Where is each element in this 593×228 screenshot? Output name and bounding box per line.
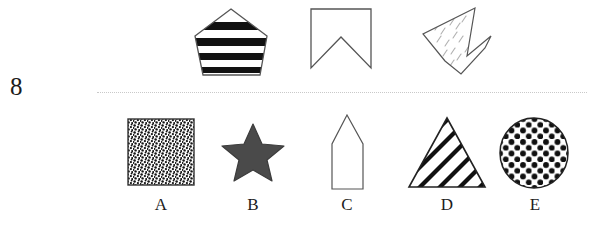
option-label-e: E (515, 196, 555, 213)
option-shape-d-striped-triangle[interactable] (407, 116, 487, 190)
option-label-b: B (233, 196, 273, 213)
stimulus-shape-striped-pentagon (191, 6, 271, 78)
question-number: 8 (10, 74, 23, 99)
option-label-c: C (327, 196, 367, 213)
option-shape-e-polka-dot-circle[interactable] (497, 116, 571, 190)
section-divider (97, 92, 587, 94)
option-shape-c-pointed-pentagon[interactable] (327, 113, 367, 191)
stimulus-shape-notched-banner (308, 6, 374, 74)
stimulus-shape-checkmark-arrow (417, 4, 497, 80)
option-shape-b-solid-star[interactable] (221, 122, 285, 184)
option-shape-a-speckled-square[interactable] (126, 117, 196, 187)
question-page: 8 (0, 0, 593, 228)
option-label-a: A (141, 196, 181, 213)
option-label-d: D (427, 196, 467, 213)
